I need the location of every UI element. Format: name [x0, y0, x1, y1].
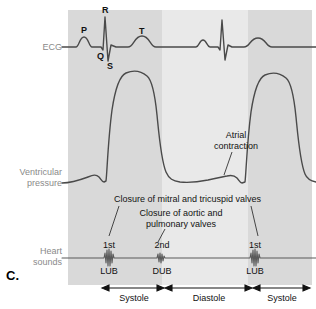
heart-sound-onomatopoeia-lub-1: LUB	[95, 266, 123, 276]
ecg-wave-label-p: P	[81, 25, 87, 35]
ecg-wave-label-q: Q	[97, 51, 104, 61]
phase-label-diastole: Diastole	[180, 293, 238, 303]
phase-arrows	[102, 285, 310, 291]
heart-sound-ordinal-second: 2nd	[147, 240, 177, 250]
mitral-tricuspid-closure-annotation: Closure of mitral and tricuspid valves	[114, 194, 254, 205]
figure-letter: C.	[6, 268, 19, 283]
heart-sound-onomatopoeia-lub-2: LUB	[241, 266, 269, 276]
heart-sounds-row-label-line2: sounds	[10, 257, 62, 268]
ecg-row-label: ECG	[30, 42, 62, 53]
ventricular-pressure-row-label-line2: pressure	[2, 178, 62, 189]
ventricular-pressure-row-label-line1: Ventricular	[2, 167, 62, 178]
ecg-wave-label-s: S	[107, 61, 113, 71]
ecg-wave-label-r: R	[102, 5, 109, 15]
atrial-contraction-annotation-line2: contraction	[206, 141, 266, 152]
heart-sound-onomatopoeia-dub: DUB	[147, 266, 177, 276]
aortic-pulmonary-closure-annotation-line1: Closure of aortic and	[128, 208, 234, 219]
heart-sound-ordinal-first-1: 1st	[95, 240, 123, 250]
atrial-contraction-annotation-line1: Atrial	[206, 130, 266, 141]
phase-label-systole-2: Systole	[253, 293, 311, 303]
phase-label-systole-1: Systole	[105, 293, 163, 303]
cardiac-cycle-figure: ECG Ventricular pressure Heart sounds P …	[0, 0, 316, 309]
ecg-wave-label-t: T	[139, 26, 145, 36]
heart-sound-ordinal-first-2: 1st	[241, 240, 269, 250]
aortic-pulmonary-closure-annotation-line2: pulmonary valves	[128, 219, 234, 230]
heart-sounds-row-label-line1: Heart	[10, 246, 62, 257]
